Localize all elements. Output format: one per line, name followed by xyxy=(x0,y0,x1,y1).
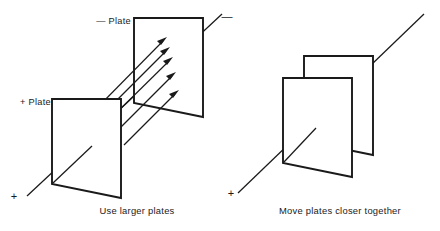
negative-plate-face xyxy=(134,18,203,117)
negative-plate-left-panel xyxy=(134,18,203,117)
near-plate-face xyxy=(283,78,352,177)
caption-use-larger-plates: Use larger plates xyxy=(99,205,174,216)
diagram-canvas: + Plate — Plate + — Use larger plates + xyxy=(0,0,440,231)
panel-move-plates-closer: + Move plates closer together xyxy=(228,14,424,216)
positive-plate-label: + Plate xyxy=(20,97,51,107)
near-plate-right-panel xyxy=(283,78,352,177)
positive-terminal-sign: + xyxy=(11,190,17,202)
negative-plate-label: — Plate xyxy=(96,16,131,26)
positive-plate-face xyxy=(52,99,121,198)
negative-terminal-sign: — xyxy=(222,10,233,22)
panel-use-larger-plates: + Plate — Plate + — Use larger plates xyxy=(11,10,233,216)
caption-move-plates-closer: Move plates closer together xyxy=(279,205,401,216)
positive-terminal-sign-right: + xyxy=(228,187,234,199)
positive-plate-left-panel xyxy=(52,99,121,198)
capacitor-plates-figure: + Plate — Plate + — Use larger plates + xyxy=(0,0,440,231)
